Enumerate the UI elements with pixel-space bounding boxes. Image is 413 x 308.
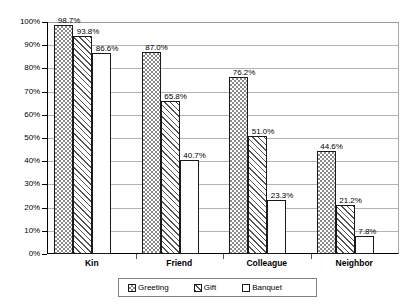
legend-label-gift: Gift [204,283,216,292]
y-axis-tick-mark [42,115,47,116]
bar-value-label: 21.2% [339,196,362,205]
legend-item-greeting[interactable]: Greeting [128,283,169,292]
bar[interactable]: 86.6% [92,53,111,254]
bar[interactable]: 44.6% [317,151,336,254]
bar-value-label: 93.8% [77,27,100,36]
y-axis-tick-mark [42,138,47,139]
legend-item-banquet[interactable]: Banquet [242,283,282,292]
bar[interactable]: 23.3% [267,200,286,254]
bar[interactable]: 51.0% [248,136,267,254]
legend-label-banquet: Banquet [252,283,282,292]
bar-value-label: 65.8% [164,92,187,101]
bar-value-label: 86.6% [96,44,119,53]
x-axis-category-label: Kin [48,258,136,268]
y-axis-tick-mark [42,92,47,93]
bar-group: 98.7%93.8%86.6% [48,22,136,254]
legend-item-gift[interactable]: Gift [194,283,216,292]
bar-group: 87.0%65.8%40.7% [136,22,224,254]
y-axis-tick-label: 0% [0,250,40,258]
y-axis-tick-mark [42,254,47,255]
y-axis-tick-label: 100% [0,18,40,26]
y-axis-tick-mark [42,45,47,46]
bar[interactable]: 7.8% [355,236,374,254]
bar-value-label: 7.8% [358,227,376,236]
chart-legend: Greeting Gift Banquet [118,278,317,297]
x-axis-category-label: Friend [136,258,224,268]
bar[interactable]: 93.8% [73,36,92,254]
bar[interactable]: 40.7% [180,160,199,254]
bar-value-label: 87.0% [145,43,168,52]
bar[interactable]: 21.2% [336,205,355,254]
bar-value-label: 23.3% [271,191,294,200]
y-axis-tick-label: 70% [0,88,40,96]
bar[interactable]: 98.7% [54,25,73,254]
bar-group: 76.2%51.0%23.3% [223,22,311,254]
y-axis-tick-label: 50% [0,134,40,142]
y-axis-tick-mark [42,22,47,23]
legend-swatch-greeting-icon [128,284,136,292]
bar-value-label: 51.0% [252,127,275,136]
x-axis-separator-tick [311,254,312,259]
y-axis-tick-mark [42,184,47,185]
legend-label-greeting: Greeting [138,283,169,292]
x-axis-separator-tick [136,254,137,259]
bar-value-label: 98.7% [58,16,81,25]
bar-group: 44.6%21.2%7.8% [311,22,399,254]
bar[interactable]: 65.8% [161,101,180,254]
bar-value-label: 44.6% [320,142,343,151]
y-axis-tick-label: 90% [0,41,40,49]
y-axis-tick-mark [42,231,47,232]
y-axis-tick-mark [42,208,47,209]
bar[interactable]: 87.0% [142,52,161,254]
y-axis-tick-label: 10% [0,227,40,235]
bar-chart: 100%90%80%70%60%50%40%30%20%10%0% 98.7%9… [0,0,413,308]
y-axis-tick-label: 40% [0,157,40,165]
bar[interactable]: 76.2% [229,77,248,254]
y-axis-tick-label: 80% [0,64,40,72]
legend-swatch-banquet-icon [242,284,250,292]
x-axis-category-label: Colleague [223,258,311,268]
y-axis-tick-mark [42,161,47,162]
bar-value-label: 40.7% [183,151,206,160]
x-axis-separator-tick [223,254,224,259]
bar-groups: 98.7%93.8%86.6%87.0%65.8%40.7%76.2%51.0%… [48,22,398,254]
x-axis-category-label: Neighbor [311,258,399,268]
bar-value-label: 76.2% [233,68,256,77]
y-axis-tick-mark [42,68,47,69]
y-axis-tick-label: 20% [0,204,40,212]
y-axis-tick-label: 60% [0,111,40,119]
legend-swatch-gift-icon [194,284,202,292]
y-axis-tick-label: 30% [0,180,40,188]
